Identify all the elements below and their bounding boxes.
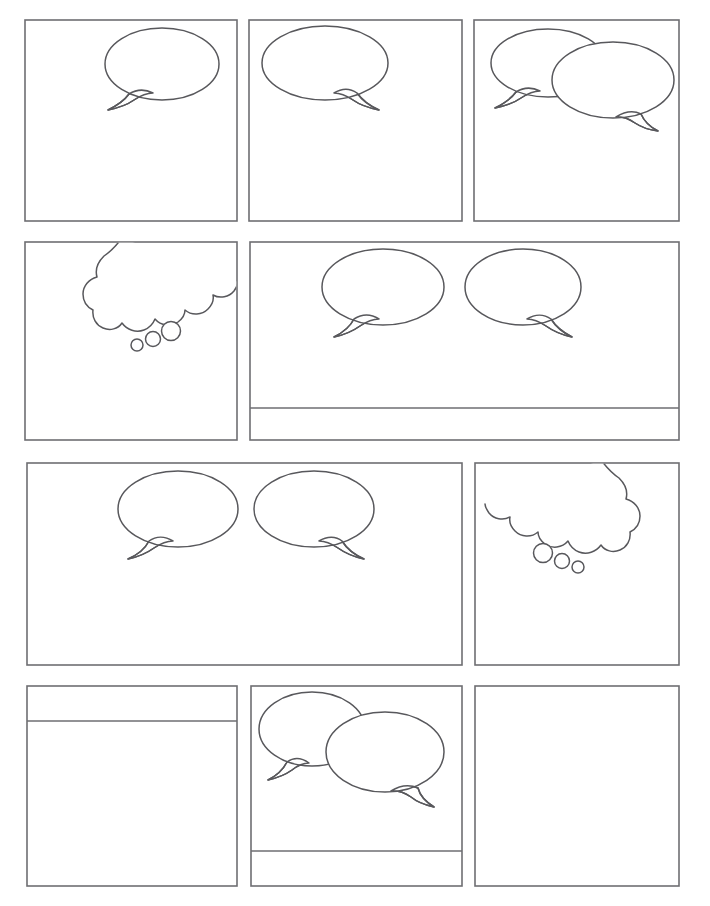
panel-1-balloon-body-1	[105, 28, 219, 100]
row-2	[25, 238, 679, 440]
row-4	[27, 686, 679, 886]
panel-9-balloon-body-2	[326, 712, 444, 792]
panel-9[interactable]	[251, 686, 462, 886]
row-3	[27, 460, 679, 665]
panel-3[interactable]	[474, 20, 679, 221]
panel-4[interactable]	[25, 238, 238, 440]
panel-5-frame[interactable]	[250, 242, 679, 440]
panel-4-thought-dot-1	[162, 322, 181, 341]
panel-8[interactable]	[27, 686, 237, 886]
panel-7[interactable]	[475, 460, 679, 665]
panel-6-balloon-body-2	[254, 471, 374, 547]
panel-3-balloon-body-2	[552, 42, 674, 118]
panel-10-frame[interactable]	[475, 686, 679, 886]
row-1	[25, 20, 679, 221]
panel-5-balloon-body-1	[322, 249, 444, 325]
panel-6-balloon-body-1	[118, 471, 238, 547]
panel-2[interactable]	[249, 20, 462, 221]
panel-4-thought-dot-3	[131, 339, 143, 351]
panel-10[interactable]	[475, 686, 679, 886]
panel-1[interactable]	[25, 20, 237, 221]
panel-7-thought-dot-1	[534, 544, 553, 563]
comic-page-canvas	[0, 0, 710, 906]
panel-5[interactable]	[250, 242, 679, 440]
panel-2-balloon-body-1	[262, 26, 388, 100]
panel-7-thought-dot-2	[555, 554, 570, 569]
panel-4-thought-dot-2	[146, 332, 161, 347]
comic-page	[0, 0, 710, 906]
panel-6-frame[interactable]	[27, 463, 462, 665]
panel-8-frame[interactable]	[27, 686, 237, 886]
panel-5-balloon-body-2	[465, 249, 581, 325]
panel-6[interactable]	[27, 463, 462, 665]
panel-7-thought-dot-3	[572, 561, 584, 573]
